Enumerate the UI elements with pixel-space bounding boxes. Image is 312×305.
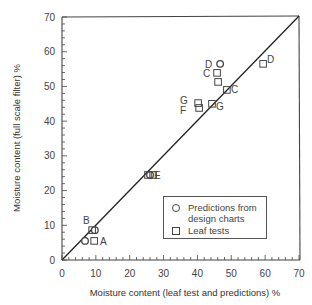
x-tick-label: 70	[293, 268, 305, 279]
label-c-right: C	[231, 84, 238, 95]
y-tick-label: 40	[44, 116, 56, 127]
label-f-left: F	[180, 105, 186, 116]
label-e: E	[154, 170, 161, 181]
label-b: B	[83, 215, 90, 226]
leaf-test-point	[215, 79, 222, 86]
square-marker-icon	[172, 227, 180, 235]
y-axis-ticks	[62, 17, 67, 260]
y-axis-tick-labels: 010203040506070	[44, 12, 56, 266]
y-tick-label: 20	[44, 185, 56, 196]
y-tick-label: 30	[44, 150, 56, 161]
legend-label-predictions-line2: design charts	[188, 213, 257, 224]
x-axis-title: Moisture content (leaf test and predicti…	[90, 287, 281, 298]
y-tick-label: 50	[44, 81, 56, 92]
y-tick-label: 10	[44, 220, 56, 231]
prediction-point	[217, 61, 224, 68]
x-tick-label: 50	[226, 268, 238, 279]
prediction-point	[82, 238, 89, 245]
scatter-chart: 010203040506070 010203040506070 Moisture…	[0, 0, 312, 305]
y-axis-title: Moisture content (full scale filter) %	[11, 64, 22, 212]
label-c-upper: C	[203, 68, 210, 79]
x-tick-label: 30	[158, 268, 170, 279]
y-tick-label: 0	[49, 255, 55, 266]
x-tick-label: 20	[124, 268, 136, 279]
x-tick-label: 0	[59, 268, 65, 279]
legend-label-leaf-tests: Leaf tests	[188, 225, 229, 236]
legend: Predictions from design charts Leaf test…	[163, 196, 267, 239]
x-axis-ticks	[62, 255, 299, 260]
leaf-test-point	[214, 70, 221, 77]
leaf-test-point	[260, 61, 267, 68]
label-g-right: G	[216, 101, 224, 112]
x-tick-label: 60	[260, 268, 272, 279]
y-tick-label: 60	[44, 46, 56, 57]
prediction-point	[92, 227, 99, 234]
label-a: A	[100, 236, 107, 247]
x-axis-tick-labels: 010203040506070	[59, 268, 305, 279]
x-tick-label: 10	[90, 268, 102, 279]
legend-item-predictions: Predictions from design charts	[164, 202, 257, 224]
legend-label-predictions: Predictions from	[188, 202, 257, 213]
circle-marker-icon	[172, 204, 180, 212]
x-tick-label: 40	[192, 268, 204, 279]
legend-item-leaf-tests: Leaf tests	[164, 225, 229, 236]
label-d-right: D	[267, 54, 274, 65]
leaf-test-point	[91, 238, 98, 245]
y-tick-label: 70	[44, 12, 56, 23]
